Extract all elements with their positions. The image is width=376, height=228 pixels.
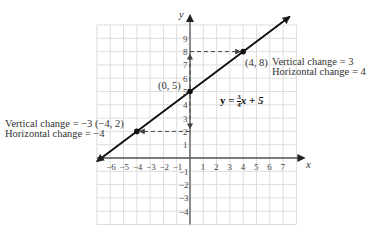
svg-text:7: 7 [183,60,188,70]
svg-text:−2: −2 [159,162,169,172]
x-axis-label: x [306,159,311,171]
svg-text:−6: −6 [106,162,116,172]
point-label-0-5: (0, 5) [158,80,181,92]
svg-text:4: 4 [241,162,246,172]
svg-text:−3: −3 [146,162,156,172]
svg-text:6: 6 [183,74,188,84]
svg-text:4: 4 [183,100,188,110]
svg-text:−3: −3 [179,193,189,203]
svg-text:−4: −4 [133,162,143,172]
equation-label: y = 34x + 5 [220,94,264,109]
svg-text:2: 2 [214,162,219,172]
svg-text:7: 7 [281,162,286,172]
y-axis-label: y [179,9,184,21]
svg-text:3: 3 [183,114,188,124]
svg-text:−1: −1 [179,167,189,177]
svg-text:6: 6 [267,162,272,172]
svg-text:3: 3 [227,162,232,172]
svg-text:−5: −5 [120,162,130,172]
coordinate-plane: −6−5−4−3−2−11234567987654321−1−2−3−4 [0,0,376,228]
svg-text:−2: −2 [179,180,189,190]
svg-text:−4: −4 [179,207,189,217]
grid-lines [97,25,297,225]
svg-text:1: 1 [201,162,206,172]
left-horizontal-change: Horizontal change = −4 [5,128,105,140]
point-label-4-8: (4, 8) [245,57,268,69]
right-horizontal-change: Horizontal change = 4 [272,66,366,78]
svg-text:1: 1 [183,140,188,150]
svg-text:2: 2 [183,127,188,137]
svg-text:5: 5 [254,162,259,172]
svg-text:8: 8 [183,47,188,57]
svg-text:9: 9 [183,34,188,44]
axes [97,15,305,225]
svg-text:5: 5 [183,87,188,97]
